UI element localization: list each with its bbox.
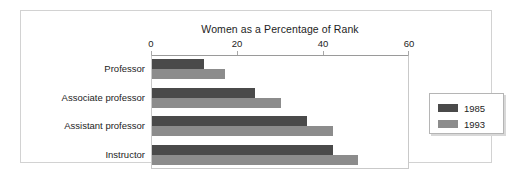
bar-1993-professor — [152, 69, 225, 79]
x-tick-label-40: 40 — [318, 38, 329, 49]
bar-1985-assistant-professor — [152, 116, 307, 126]
legend-label-1993: 1993 — [464, 119, 485, 130]
plot-area — [151, 55, 409, 169]
chart-legend: 19851993 — [429, 93, 504, 134]
legend-swatch-1993 — [438, 120, 458, 128]
chart-frame: Women as a Percentage of Rank 0204060 Pr… — [20, 10, 492, 163]
bar-group-associate-professor — [152, 85, 408, 114]
y-category-label-associate-professor: Associate professor — [62, 84, 145, 113]
bar-group-instructor — [152, 142, 408, 171]
x-axis-tick-labels: 0204060 — [151, 38, 409, 50]
y-category-label-assistant-professor: Assistant professor — [64, 112, 145, 141]
legend-item-1993[interactable]: 1993 — [438, 117, 485, 131]
bar-group-professor — [152, 56, 408, 85]
bar-1985-instructor — [152, 145, 333, 155]
legend-label-1985: 1985 — [464, 103, 485, 114]
x-tick-label-60: 60 — [404, 38, 415, 49]
y-category-label-professor: Professor — [104, 55, 145, 84]
legend-swatch-1985 — [438, 104, 458, 112]
bar-1993-instructor — [152, 155, 358, 165]
chart-title: Women as a Percentage of Rank — [151, 23, 409, 35]
y-category-label-instructor: Instructor — [105, 141, 145, 170]
bar-group-assistant-professor — [152, 113, 408, 142]
bar-1993-associate-professor — [152, 98, 281, 108]
y-axis-category-labels: ProfessorAssociate professorAssistant pr… — [45, 55, 148, 169]
bar-1985-associate-professor — [152, 88, 255, 98]
bar-1985-professor — [152, 59, 204, 69]
x-tick-label-0: 0 — [148, 38, 153, 49]
bar-1993-assistant-professor — [152, 126, 333, 136]
legend-item-1985[interactable]: 1985 — [438, 101, 485, 115]
x-tick-label-20: 20 — [232, 38, 243, 49]
